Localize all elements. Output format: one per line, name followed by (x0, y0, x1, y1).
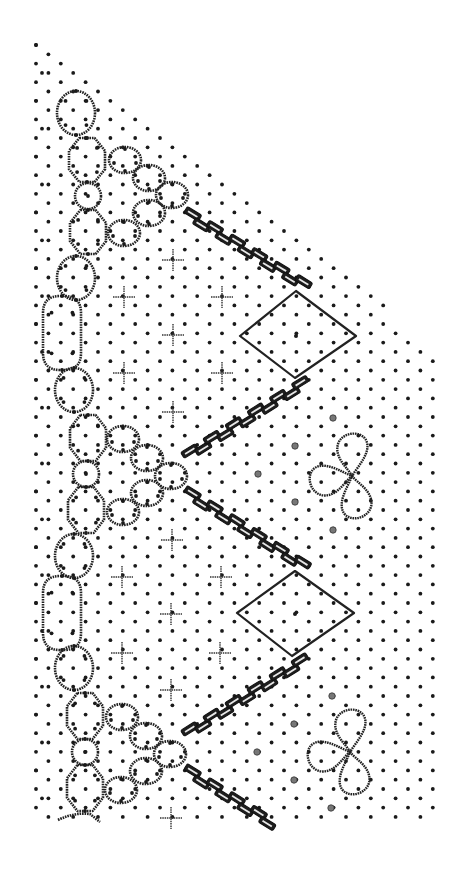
pin-dot (109, 583, 113, 587)
pin-dot (431, 731, 435, 735)
pin-dot (171, 294, 175, 298)
pin-dot (220, 610, 224, 614)
pin-dot (158, 304, 162, 308)
pin-dot (357, 415, 361, 419)
pin-dot (357, 285, 361, 289)
pin-dot (245, 778, 249, 782)
pin-dot (34, 676, 38, 680)
pin-dot (96, 423, 100, 427)
pin-dot (73, 773, 77, 777)
pin-dot (270, 387, 274, 391)
pin-dot (282, 359, 286, 363)
pin-dot (369, 555, 373, 559)
pin-dot (121, 462, 125, 466)
pin-dot (59, 769, 63, 773)
pin-dot (406, 713, 410, 717)
pin-dot (133, 806, 137, 810)
pin-dot (133, 378, 137, 382)
pin-dot (381, 564, 385, 568)
pin-dot (171, 220, 175, 224)
spider-dot-icon (254, 749, 260, 755)
pin-dot (133, 545, 137, 549)
pin-dot (183, 285, 187, 289)
pin-dot (71, 443, 75, 447)
pin-dot (245, 648, 249, 652)
pin-dot (47, 90, 51, 94)
pin-dot (245, 369, 249, 373)
pin-dot (369, 294, 373, 298)
pin-dot (86, 413, 90, 417)
pin-dot (233, 211, 237, 215)
pin-dot (319, 443, 323, 447)
pin-dot (406, 583, 410, 587)
pin-dot (357, 452, 361, 456)
pin-dot (59, 750, 63, 754)
pin-dot (295, 759, 299, 763)
pin-dot (34, 285, 38, 289)
pin-dot (34, 638, 38, 642)
pin-dot (121, 426, 125, 430)
pin-dot (406, 508, 410, 512)
pin-dot (332, 564, 336, 568)
pin-dot (59, 676, 63, 680)
pin-dot (71, 387, 75, 391)
pin-dot (293, 612, 297, 616)
pin-dot (332, 341, 336, 345)
pin-dot (171, 369, 175, 373)
pin-dot (357, 359, 361, 363)
pin-dot (270, 815, 274, 819)
pin-dot (307, 266, 311, 270)
pin-dot (195, 480, 199, 484)
pin-dot (146, 592, 150, 596)
pin-dot (431, 583, 435, 587)
lace-pricking-diagram (0, 0, 459, 880)
pin-dot (71, 311, 75, 315)
pin-dot (195, 685, 199, 689)
pin-dot (158, 806, 162, 810)
pin-dot (134, 494, 138, 498)
pin-dot (109, 718, 113, 722)
pin-dot (233, 806, 237, 810)
pin-dot (109, 397, 113, 401)
pin-dot (74, 495, 78, 499)
pin-dot (344, 276, 348, 280)
pin-dot (170, 182, 174, 186)
pin-dot (357, 322, 361, 326)
pin-dot (419, 387, 423, 391)
pin-dot (122, 242, 126, 246)
pin-dot (50, 591, 54, 595)
pin-dot (59, 601, 63, 605)
pin-dot (282, 322, 286, 326)
pin-dot (109, 620, 113, 624)
pin-dot (406, 545, 410, 549)
pin-dot (257, 508, 261, 512)
pin-dot (431, 434, 435, 438)
pin-dot (282, 471, 286, 475)
pin-dot (295, 424, 299, 428)
pin-dot (381, 545, 385, 549)
pin-dot (85, 123, 89, 127)
pin-dot (146, 555, 150, 559)
clover-motifs (306, 434, 374, 797)
pin-dot (34, 657, 38, 661)
pin-dot (183, 545, 187, 549)
pin-dot (158, 211, 162, 215)
pin-dot (109, 508, 113, 512)
pin-dot (84, 601, 88, 605)
pin-dot (59, 192, 63, 196)
pin-dot (121, 480, 125, 484)
spider-dot-icon (292, 443, 298, 449)
pin-dot (369, 648, 373, 652)
pin-dot (155, 737, 159, 741)
cross-icon (209, 642, 231, 664)
pin-dot (394, 350, 398, 354)
pin-dot (133, 471, 137, 475)
pin-dot (233, 657, 237, 661)
pin-dot (121, 629, 125, 633)
pin-dot (233, 620, 237, 624)
pin-dot (220, 592, 224, 596)
pin-dot (133, 322, 137, 326)
pin-dot (332, 676, 336, 680)
pin-dot (84, 485, 88, 489)
pin-dot (295, 685, 299, 689)
